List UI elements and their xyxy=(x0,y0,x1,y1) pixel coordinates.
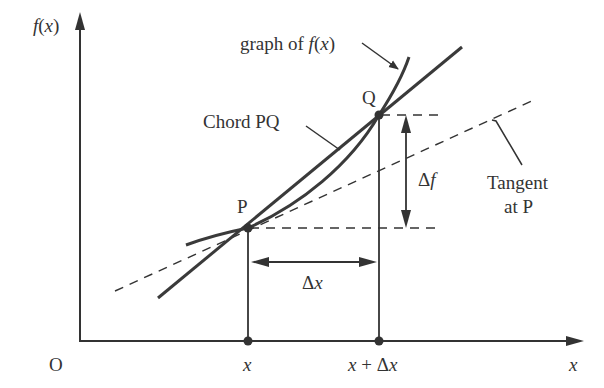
chord-leader xyxy=(306,126,340,150)
chord-pq xyxy=(158,47,462,298)
x-axis-label: x xyxy=(568,354,578,375)
tangent-label-1: Tangent xyxy=(487,172,549,193)
function-curve xyxy=(186,57,409,245)
tick-x-label: x xyxy=(242,354,252,375)
delta-x-label: Δx xyxy=(302,272,323,293)
x-axis xyxy=(79,336,584,346)
graph-leader xyxy=(362,43,398,69)
point-p xyxy=(244,224,253,233)
point-q xyxy=(375,111,384,120)
delta-x-arrow xyxy=(251,257,377,267)
origin-label: O xyxy=(49,354,63,375)
chord-label: Chord PQ xyxy=(203,111,280,132)
tick-x xyxy=(244,337,253,346)
tangent-label-2: at P xyxy=(504,196,533,217)
tick-x-dx-label: x + Δx xyxy=(347,354,398,375)
tick-x-dx xyxy=(375,337,384,346)
y-axis xyxy=(75,12,85,341)
q-label: Q xyxy=(362,87,376,108)
p-label: P xyxy=(237,196,248,217)
delta-f-label: Δf xyxy=(418,169,438,190)
y-axis-label: f(x) xyxy=(33,15,59,37)
derivative-diagram: f(x) graph of f(x) Chord PQ Q P Tangent … xyxy=(0,0,604,388)
delta-f-arrow xyxy=(401,115,411,228)
tangent-leader xyxy=(492,120,522,165)
graph-label: graph of f(x) xyxy=(240,33,335,55)
